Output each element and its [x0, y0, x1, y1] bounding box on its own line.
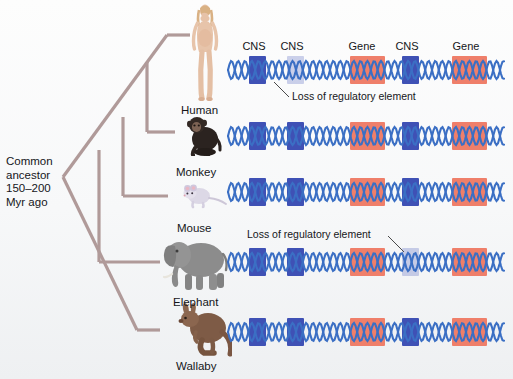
annotation-loss-2: Loss of regulatory element [247, 228, 371, 240]
annotation-loss-1: Loss of regulatory element [292, 90, 416, 102]
leader-line-2 [388, 236, 404, 252]
leader-line-1 [274, 82, 289, 97]
figure-canvas: Common ancestor 150–200 Myr ago [0, 0, 513, 379]
annotation-leaders [0, 0, 513, 379]
